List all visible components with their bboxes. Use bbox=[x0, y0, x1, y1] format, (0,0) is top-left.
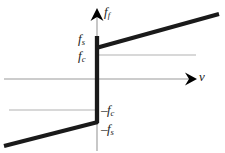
positive-velocity-branch bbox=[96, 14, 219, 48]
coulomb-friction-negative-label: –fc bbox=[101, 103, 114, 118]
x-axis-label: v bbox=[199, 70, 205, 83]
negative-velocity-branch bbox=[4, 122, 98, 146]
static-friction-positive-label: fs bbox=[78, 32, 85, 47]
coulomb-friction-positive-label: fc bbox=[78, 49, 85, 64]
static-friction-negative-label: –fs bbox=[101, 122, 114, 137]
friction-diagram: ff fs fc –fc –fs v bbox=[0, 0, 225, 153]
y-axis-label: ff bbox=[104, 5, 110, 20]
